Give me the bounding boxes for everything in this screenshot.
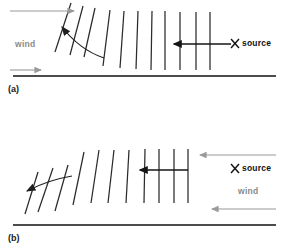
panel-a-front-lines [55,3,210,70]
front-line [70,6,83,55]
panel-b-source-label: source [242,163,271,173]
wave-front-figure: source wind (a) [0,0,289,250]
panel-b-source-marker [231,164,239,173]
panel-b-label: (b) [8,233,20,243]
front-line [38,168,53,212]
panel-a-curved-propagation-arrow [62,27,104,58]
panel-a: source wind (a) [8,3,276,94]
front-line [144,149,145,203]
front-line [25,172,38,214]
front-line [151,11,152,70]
panel-b-wind-label: wind [237,186,259,196]
front-line [126,150,129,203]
panel-a-source-marker [231,39,239,48]
front-line [91,150,99,203]
front-line [120,11,124,68]
panel-b: source wind (b) [8,149,276,243]
panel-a-label: (a) [8,84,19,94]
front-line [55,165,68,211]
panel-a-wind-label: wind [14,39,36,49]
front-line [73,152,84,205]
panel-a-source-label: source [242,38,271,48]
front-line [108,150,114,203]
front-line [136,11,138,69]
